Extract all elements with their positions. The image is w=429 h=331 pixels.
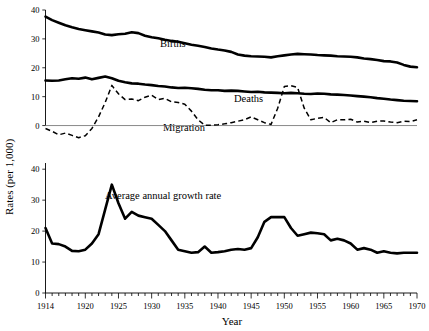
x-tick-label: 1955 [309, 301, 326, 311]
top-y-tick-label: 40 [31, 5, 40, 15]
bottom-y-tick-label: 10 [31, 257, 40, 267]
series-label-migration: Migration [163, 122, 206, 133]
top-y-tick-label: 0 [35, 121, 39, 131]
chart-figure: Rates (per 1,000) Year Births Deaths Mig… [0, 0, 429, 331]
bottom-y-tick-label: 40 [31, 164, 40, 174]
x-tick-label: 1935 [176, 301, 193, 311]
x-tick-label: 1970 [409, 301, 426, 311]
top-y-tick-label: 30 [31, 34, 40, 44]
series-label-growth: Average annual growth rate [105, 190, 221, 201]
bottom-y-tick-label: 0 [35, 288, 39, 298]
bottom-y-tick-label: 30 [31, 195, 40, 205]
curve-births [46, 17, 418, 68]
x-axis-title: Year [222, 315, 243, 327]
curves-layer [46, 17, 418, 254]
x-tick-label: 1925 [110, 301, 127, 311]
top-y-tick-label: 10 [31, 92, 40, 102]
bottom-y-tick-label: 20 [31, 226, 40, 236]
x-tick-label: 1960 [342, 301, 359, 311]
y-axis-title: Rates (per 1,000) [3, 139, 16, 215]
x-tick-label: 1940 [209, 301, 226, 311]
x-tick-label: 1920 [77, 301, 94, 311]
curve-deaths [46, 76, 418, 101]
demographic-rates-chart: Rates (per 1,000) Year Births Deaths Mig… [0, 0, 429, 331]
x-tick-label: 1965 [375, 301, 392, 311]
x-tick-label: 1930 [143, 301, 160, 311]
x-tick-label: 1945 [243, 301, 260, 311]
x-tick-label: 1914 [37, 301, 55, 311]
curve-average-annual-growth-rate [46, 185, 418, 254]
x-tick-label: 1950 [276, 301, 293, 311]
series-label-deaths: Deaths [234, 93, 263, 104]
top-y-tick-label: 20 [31, 63, 40, 73]
curve-migration [46, 85, 418, 137]
